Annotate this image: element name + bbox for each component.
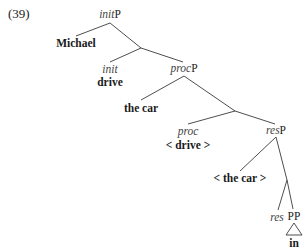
branch-resP-thecar: [240, 137, 276, 171]
node-the-car: the car: [124, 102, 158, 115]
node-procP-head: proc: [170, 62, 191, 74]
node-init-word: drive: [97, 76, 123, 89]
branch-procP-bar: [184, 76, 235, 111]
node-michael: Michael: [56, 37, 96, 50]
branch-bar-procP: [141, 48, 183, 62]
branch-bar-init: [110, 48, 141, 62]
node-procP: procP: [170, 62, 197, 75]
example-number: (39): [8, 7, 30, 21]
node-resP-suffix: P: [280, 124, 286, 136]
node-initP-head: init: [99, 8, 114, 20]
branch-resP-bar: [276, 137, 287, 180]
pp-triangle: [286, 223, 302, 235]
node-resP-head: res: [266, 124, 280, 136]
node-procP-suffix: P: [191, 62, 197, 74]
node-init-label: init: [102, 63, 117, 76]
tree-branches: [0, 0, 308, 251]
branch-initP-bar: [110, 23, 141, 48]
node-proc-label: proc: [178, 125, 199, 138]
node-initP: initP: [99, 8, 121, 21]
branch-procP-thecar: [141, 76, 184, 100]
branch-initP-michael: [76, 23, 110, 36]
branch-bar-resP: [235, 111, 275, 124]
node-initP-suffix: P: [114, 8, 120, 20]
branch-bar-PP: [287, 180, 293, 209]
node-pp: PP: [288, 210, 301, 223]
branch-bar-res: [278, 180, 287, 210]
node-proc-word: < drive >: [166, 139, 210, 152]
node-pp-word: in: [289, 237, 299, 250]
node-the-car-trace: < the car >: [214, 172, 267, 185]
branch-bar-proc: [188, 111, 235, 124]
node-res-label: res: [270, 211, 284, 224]
node-resP: resP: [266, 124, 286, 137]
